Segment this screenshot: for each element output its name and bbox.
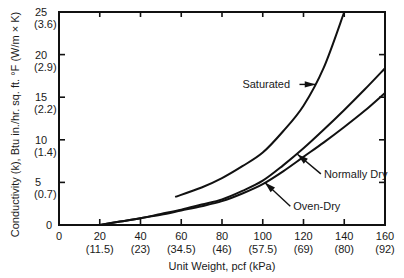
conductivity-chart: Conductivity (k), Btu in./hr. sq. ft. °F… (0, 0, 404, 278)
x-tick-sublabel: (57.5) (248, 243, 277, 255)
x-tick-label: 160 (376, 230, 394, 242)
x-tick-label: 140 (335, 230, 353, 242)
x-tick-label: 100 (254, 230, 272, 242)
y-tick-label: 15 (35, 91, 47, 103)
x-tick-label: 20 (94, 230, 106, 242)
x-tick-sublabel: (80) (334, 243, 354, 255)
annotation-label: Normally Dry (324, 168, 388, 180)
y-tick-label: 20 (35, 49, 47, 61)
x-tick-label: 120 (294, 230, 312, 242)
x-tick-sublabel: (92) (375, 243, 395, 255)
y-tick-sublabel: (2.9) (34, 61, 57, 73)
x-tick-sublabel: (69) (294, 243, 314, 255)
x-tick-label: 80 (216, 230, 228, 242)
y-tick-sublabel: (3.6) (34, 18, 57, 30)
y-tick-sublabel: (0.7) (34, 188, 57, 200)
y-tick-sublabel: (2.2) (34, 103, 57, 115)
annotation-label: Oven-Dry (293, 200, 341, 212)
x-axis-ticks: 020(11.5)40(23)60(34.5)80(46)100(57.5)12… (56, 12, 395, 255)
x-tick-label: 0 (56, 230, 62, 242)
x-tick-sublabel: (46) (212, 243, 232, 255)
x-tick-label: 40 (134, 230, 146, 242)
x-tick-label: 60 (175, 230, 187, 242)
y-tick-sublabel: (1.4) (34, 146, 57, 158)
y-axis-title: Conductivity (k), Btu in./hr. sq. ft. °F… (9, 12, 21, 237)
curve-saturated (175, 12, 344, 197)
y-axis-ticks: 05(0.7)10(1.4)15(2.2)20(2.9)25(3.6) (34, 6, 385, 231)
curve-annotations: SaturatedNormally DryOven-Dry (242, 78, 388, 212)
y-tick-label: 25 (35, 6, 47, 18)
x-axis-title: Unit Weight, pcf (kPa) (169, 260, 276, 272)
annotation-label: Saturated (242, 78, 290, 90)
y-tick-label: 5 (35, 176, 41, 188)
curves (100, 12, 385, 225)
curve-normally-dry (100, 68, 385, 225)
y-tick-label: 0 (46, 219, 52, 231)
x-tick-sublabel: (11.5) (86, 243, 114, 255)
x-tick-sublabel: (34.5) (167, 243, 196, 255)
y-axis-title-text: Conductivity (k), Btu in./hr. sq. ft. °F… (9, 12, 21, 237)
x-tick-sublabel: (23) (131, 243, 151, 255)
y-tick-label: 10 (35, 134, 47, 146)
